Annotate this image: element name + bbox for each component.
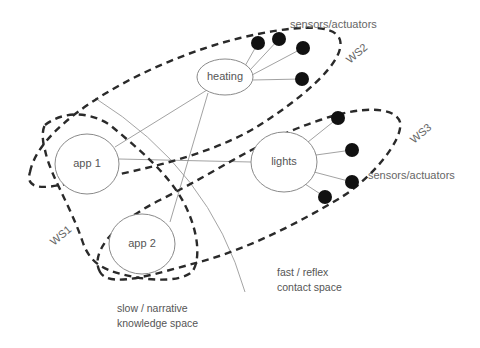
sensors-lights — [318, 111, 359, 204]
fast-space-caption-line2: contact space — [277, 281, 342, 293]
sensor-dot — [272, 32, 286, 46]
sensor-dot — [331, 111, 345, 125]
sensor-dot — [318, 190, 332, 204]
node-lights: lights — [251, 132, 317, 192]
edge-app2-heating — [170, 93, 208, 222]
sensor-dot — [345, 175, 359, 189]
node-app2: app 2 — [109, 214, 175, 274]
sensor-dot — [251, 36, 265, 50]
sensors-label-top: sensors/actuators — [290, 18, 377, 30]
sensor-dot — [295, 72, 309, 86]
edge-app1-heating — [115, 90, 207, 147]
sensor-dot — [345, 143, 359, 157]
edge-heating-sensor — [252, 48, 303, 75]
node-app2-label: app 2 — [128, 237, 156, 249]
ws3-label: WS3 — [408, 121, 434, 146]
sensors-label-right: sensors/actuators — [368, 169, 455, 181]
node-heating: heating — [197, 59, 253, 95]
edge-heating-sensor — [252, 79, 302, 80]
node-app1: app 1 — [55, 134, 119, 194]
node-heating-label: heating — [207, 70, 243, 82]
node-app1-label: app 1 — [73, 157, 101, 169]
node-lights-label: lights — [271, 155, 297, 167]
slow-space-caption-line1: slow / narrative — [117, 302, 188, 314]
diagram-canvas: heating lights app 1 app 2 sensors/actua… — [0, 0, 480, 348]
sensor-dot — [296, 41, 310, 55]
fast-space-caption-line1: fast / reflex — [277, 266, 329, 278]
slow-space-caption-line2: knowledge space — [117, 317, 198, 329]
ws1-label: WS1 — [48, 223, 74, 248]
ws2-label: WS2 — [344, 41, 370, 66]
